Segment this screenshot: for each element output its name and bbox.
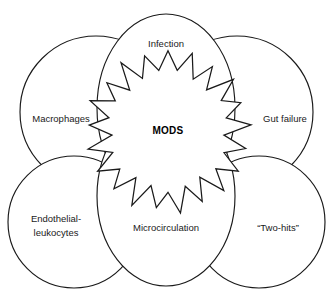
- label-mods: MODS: [152, 125, 183, 136]
- mods-venn-diagram: Infection Macrophages Gut failure Endoth…: [0, 0, 333, 293]
- label-microcirculation: Microcirculation: [133, 222, 199, 233]
- venn-diagram-canvas: Infection Macrophages Gut failure Endoth…: [0, 0, 333, 293]
- label-macrophages: Macrophages: [32, 113, 90, 124]
- label-gut-failure: Gut failure: [263, 113, 307, 124]
- label-two-hits: “Two-hits”: [257, 222, 299, 233]
- label-infection: Infection: [148, 38, 184, 49]
- label-endothelial-leukocytes-line2: leukocytes: [34, 227, 79, 238]
- label-endothelial-leukocytes-line1: Endothelial-: [31, 213, 81, 224]
